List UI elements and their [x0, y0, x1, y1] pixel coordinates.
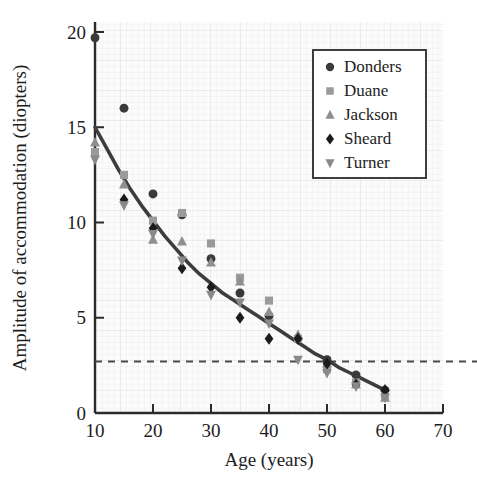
data-point	[120, 171, 128, 179]
legend-item-label: Turner	[344, 153, 390, 172]
y-tick-label-15: 15	[67, 117, 86, 138]
data-point	[236, 289, 245, 298]
y-tick-label-20: 20	[67, 22, 86, 43]
x-tick-label-60: 60	[376, 420, 395, 441]
data-point	[120, 104, 129, 113]
y-tick-label-10: 10	[67, 212, 86, 233]
legend-item-label: Jackson	[344, 105, 398, 124]
legend-marker-icon	[326, 63, 334, 71]
data-point	[207, 239, 215, 247]
x-tick-label-40: 40	[260, 420, 279, 441]
x-tick-label-20: 20	[144, 420, 163, 441]
y-axis-title: Amplitude of accommodation (diopters)	[9, 65, 31, 372]
data-point	[352, 370, 361, 379]
data-point	[91, 148, 99, 156]
x-tick-label-70: 70	[434, 420, 453, 441]
x-tick-label-30: 30	[202, 420, 221, 441]
chart-figure: 20 15 10 5 0 10 20 30 40 50 60 70 Age (y…	[0, 0, 477, 488]
x-tick-label-10: 10	[86, 420, 105, 441]
legend-item-label: Sheard	[344, 129, 392, 148]
data-point	[178, 209, 186, 217]
data-point	[149, 189, 158, 198]
legend-item-label: Donders	[344, 57, 402, 76]
x-axis-title: Age (years)	[224, 449, 313, 471]
x-tick-label-50: 50	[318, 420, 337, 441]
accommodation-scatter-plot: 20 15 10 5 0 10 20 30 40 50 60 70 Age (y…	[0, 0, 477, 488]
legend-marker-icon	[326, 87, 333, 94]
legend-item-label: Duane	[344, 81, 388, 100]
data-point	[265, 297, 273, 305]
data-point	[91, 33, 100, 42]
y-tick-label-5: 5	[77, 307, 87, 328]
